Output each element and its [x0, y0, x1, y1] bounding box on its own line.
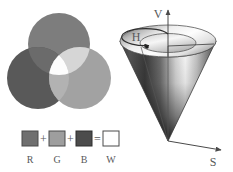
hue-arrow-tip-dot: [145, 45, 149, 49]
legend-swatch-w: [103, 131, 119, 146]
legend-label-r: R: [27, 154, 34, 165]
figure-svg: + + = R G B W: [0, 0, 233, 172]
legend-label-w: W: [106, 154, 116, 165]
value-axis-label: V: [154, 7, 163, 21]
legend-plus-2: +: [67, 132, 74, 146]
figure-root: + + = R G B W: [0, 0, 233, 172]
legend-swatch-r: [22, 131, 38, 146]
legend-plus-1: +: [40, 132, 47, 146]
saturation-axis-label: S: [210, 155, 217, 169]
legend-equals: =: [94, 132, 101, 146]
legend-label-b: B: [81, 154, 88, 165]
legend-swatch-g: [49, 131, 65, 146]
legend-label-g: G: [53, 154, 60, 165]
hue-label: H: [132, 30, 141, 44]
legend-swatch-b: [76, 131, 92, 146]
